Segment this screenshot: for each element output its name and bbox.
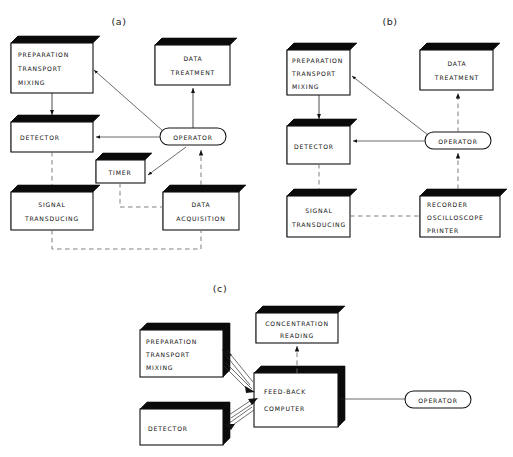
panel-c-label: (c) [213,283,227,294]
panel-c-concentration-line-2: READING [280,332,314,339]
panel-b-preparation-line-1: PREPARATION [292,57,343,64]
panel-c-concentration-line-1: CONCENTRATION [265,320,329,327]
panel-c-feedback-line-2: COMPUTER [264,405,305,412]
panel-a-node-preparation: PREPARATION TRANSPORT MIXING [11,36,100,93]
panel-a-label: (a) [111,16,126,27]
panel-c-operator-label: OPERATOR [418,397,458,404]
panel-b-signal-line-2: TRANSDUCING [291,221,346,228]
panel-b-data-treatment-line-2: TREATMENT [434,74,479,81]
panel-a-operator-label: OPERATOR [173,134,213,141]
panel-b-node-operator: OPERATOR [425,132,491,149]
panel-a-preparation-line-2: TRANSPORT [17,65,62,72]
panel-b-node-data-treatment: DATA TREATMENT [420,43,500,90]
panel-c-detector-label: DETECTOR [148,425,188,432]
panel-b-recorder-line-1: RECORDER [427,201,468,208]
panel-c-node-preparation: PREPARATION TRANSPORT MIXING [140,323,230,377]
panel-a-preparation-line-3: MIXING [18,79,45,86]
panel-a-timer-label: TIMER [107,169,131,176]
panel-a-node-timer: TIMER [96,153,152,183]
panel-a-node-data-treatment: DATA TREATMENT [155,38,237,85]
panel-a-node-signal-transducing: SIGNAL TRANSDUCING [11,185,100,230]
block-diagram-svg: (a) PREPARATION TRANSPORT MIXING DETECTO… [0,0,513,457]
panel-a-node-data-acquisition: DATA ACQUISITION [163,185,246,230]
panel-a-node-operator: OPERATOR [160,128,226,145]
panel-b-node-detector: DETECTOR [287,119,357,164]
panel-c-node-concentration-reading: CONCENTRATION READING [256,306,345,343]
panel-c-preparation-line-3: MIXING [146,364,173,371]
panel-b-preparation-line-3: MIXING [292,83,319,90]
panel-b-node-recorder: RECORDER OSCILLOSCOPE PRINTER [420,189,507,237]
panel-a-data-acquisition-line-2: ACQUISITION [176,215,225,222]
panel-b-node-preparation: PREPARATION TRANSPORT MIXING [287,43,357,95]
panel-a-detector-label: DETECTOR [20,134,60,141]
panel-c-node-detector: DETECTOR [140,402,230,445]
panel-a-data-acquisition-line-1: DATA [191,201,210,208]
panel-c-node-feedback-computer: FEED-BACK COMPUTER [254,366,345,427]
panel-a-data-treatment-line-2: TREATMENT [170,69,215,76]
panel-b-label: (b) [382,16,397,27]
panel-c-preparation-line-2: TRANSPORT [145,351,190,358]
panel-a-signal-line-1: SIGNAL [38,201,66,208]
panel-a-node-detector: DETECTOR [11,115,100,152]
figure-canvas: (a) PREPARATION TRANSPORT MIXING DETECTO… [0,0,513,457]
panel-a-preparation-line-1: PREPARATION [18,51,69,58]
panel-b-node-signal-transducing: SIGNAL TRANSDUCING [287,189,357,237]
panel-c-preparation-line-1: PREPARATION [146,338,197,345]
panel-b-signal-line-1: SIGNAL [305,207,333,214]
panel-b-recorder-line-2: OSCILLOSCOPE [427,214,484,221]
panel-b-detector-label: DETECTOR [294,143,334,150]
panel-b-operator-label: OPERATOR [438,138,478,145]
panel-a-data-treatment-line-1: DATA [183,55,202,62]
panel-a-signal-line-2: TRANSDUCING [24,215,79,222]
panel-c-node-operator: OPERATOR [405,391,471,408]
panel-b-data-treatment-line-1: DATA [447,60,466,67]
panel-b-preparation-line-2: TRANSPORT [291,70,336,77]
panel-b-recorder-line-3: PRINTER [427,227,459,234]
panel-c-feedback-line-1: FEED-BACK [264,388,306,395]
